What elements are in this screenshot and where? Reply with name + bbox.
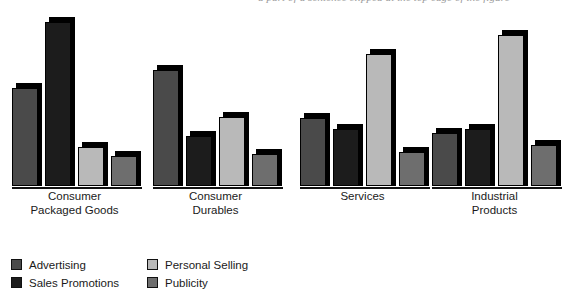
bar-face	[78, 147, 104, 186]
legend-label: Publicity	[165, 277, 208, 289]
legend-swatch-icon	[147, 259, 158, 270]
bar-face	[111, 156, 137, 186]
category-axis-labels: Consumer Packaged GoodsConsumer Durables…	[0, 190, 554, 230]
bar[interactable]	[153, 70, 179, 186]
bar[interactable]	[432, 133, 458, 186]
group-baseline	[432, 187, 562, 189]
legend-item[interactable]: Personal Selling	[147, 257, 248, 272]
clipped-caption-strip: a part of a sentence clipped at the top …	[0, 0, 554, 8]
bar-face	[531, 145, 557, 186]
group-baseline	[12, 187, 142, 189]
category-label: Consumer Packaged Goods	[0, 190, 155, 217]
bar[interactable]	[300, 118, 326, 186]
bar-face	[252, 154, 278, 186]
legend-label: Personal Selling	[165, 259, 248, 271]
bar-face	[153, 70, 179, 186]
bar[interactable]	[333, 129, 359, 186]
bar-group	[153, 8, 278, 186]
bar-face	[399, 152, 425, 186]
legend-item[interactable]: Sales Promotions	[11, 275, 119, 290]
bar[interactable]	[366, 54, 392, 186]
bar-face	[432, 133, 458, 186]
bar[interactable]	[498, 35, 524, 186]
bar-face	[45, 22, 71, 186]
bar-face	[300, 118, 326, 186]
legend-label: Advertising	[29, 259, 86, 271]
group-baseline	[153, 187, 283, 189]
legend-label: Sales Promotions	[29, 277, 119, 289]
bar-face	[12, 88, 38, 186]
bar-face	[186, 136, 212, 186]
legend-swatch-icon	[11, 259, 22, 270]
bar[interactable]	[252, 154, 278, 186]
bar[interactable]	[219, 117, 245, 186]
category-label: Industrial Products	[414, 190, 566, 217]
legend-swatch-icon	[11, 277, 22, 288]
bar-group	[432, 8, 557, 186]
bar[interactable]	[12, 88, 38, 186]
bar-group	[12, 8, 137, 186]
legend-item[interactable]: Publicity	[147, 275, 208, 290]
bar-chart-plot-area	[0, 8, 554, 186]
bar-face	[366, 54, 392, 186]
group-baseline	[300, 187, 430, 189]
bar-face	[465, 129, 491, 186]
bar-face	[219, 117, 245, 186]
legend-swatch-icon	[147, 277, 158, 288]
clipped-caption-text: a part of a sentence clipped at the top …	[258, 0, 510, 3]
bar[interactable]	[531, 145, 557, 186]
legend-item[interactable]: Advertising	[11, 257, 86, 272]
bar[interactable]	[111, 156, 137, 186]
bar[interactable]	[186, 136, 212, 186]
bar-face	[498, 35, 524, 186]
chart-legend: AdvertisingSales PromotionsPersonal Sell…	[11, 257, 411, 293]
bar[interactable]	[78, 147, 104, 186]
bar[interactable]	[465, 129, 491, 186]
bar[interactable]	[399, 152, 425, 186]
category-label: Consumer Durables	[135, 190, 296, 217]
bar-face	[333, 129, 359, 186]
bar[interactable]	[45, 22, 71, 186]
bar-group	[300, 8, 425, 186]
